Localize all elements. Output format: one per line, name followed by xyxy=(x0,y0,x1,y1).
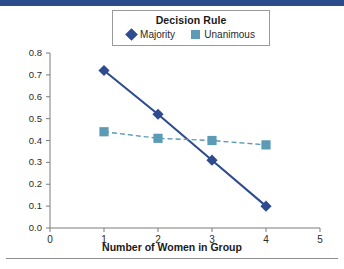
y-tick-label: 0.4 xyxy=(16,135,42,146)
y-tick-label: 0.1 xyxy=(16,200,42,211)
y-tick-label: 0.8 xyxy=(16,47,42,58)
axis-lines xyxy=(50,53,320,228)
y-tick-label: 0.3 xyxy=(16,156,42,167)
y-tick-label: 0.5 xyxy=(16,113,42,124)
data-series-group xyxy=(98,65,271,212)
x-axis-title: Number of Women in Group xyxy=(0,241,344,253)
axis-ticks xyxy=(46,53,320,232)
y-tick-label: 0.7 xyxy=(16,69,42,80)
plot-area xyxy=(0,0,344,269)
y-tick-label: 0.0 xyxy=(16,222,42,233)
y-tick-label: 0.2 xyxy=(16,178,42,189)
y-tick-label: 0.6 xyxy=(16,91,42,102)
bottom-rule-divider xyxy=(6,258,338,259)
chart-figure: Decision Rule Majority Unanimous 0.00.10… xyxy=(0,0,344,269)
